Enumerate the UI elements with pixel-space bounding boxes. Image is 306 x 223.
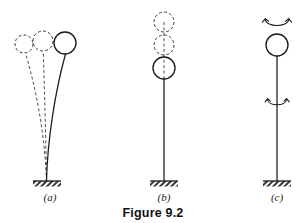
panel-a-mass-solid <box>54 32 76 54</box>
figure-container: (a) (b) (c) Figure 9.2 <box>0 0 306 223</box>
figure-drawing <box>0 0 306 223</box>
panel-b-group <box>150 12 178 187</box>
panel-a-ground <box>33 181 61 187</box>
panel-a-mass-left-dashed <box>15 35 33 53</box>
panel-a-rod-dashed-left <box>26 54 47 182</box>
panel-c-rotation-arrow-upper <box>262 19 291 26</box>
panel-a-mass-center-dashed <box>33 31 53 51</box>
panel-b-ground <box>150 181 178 187</box>
panel-c-mass-solid <box>266 34 288 56</box>
panel-c-ground <box>263 181 291 187</box>
panel-a-group <box>15 31 76 187</box>
panel-label-a: (a) <box>30 191 70 203</box>
panel-a-rod-dashed-center <box>43 52 46 182</box>
figure-caption: Figure 9.2 <box>0 206 306 220</box>
panel-label-c: (c) <box>257 191 297 203</box>
panel-c-group <box>262 19 291 187</box>
panel-label-b: (b) <box>144 191 184 203</box>
panel-a-rod-solid <box>47 54 66 181</box>
